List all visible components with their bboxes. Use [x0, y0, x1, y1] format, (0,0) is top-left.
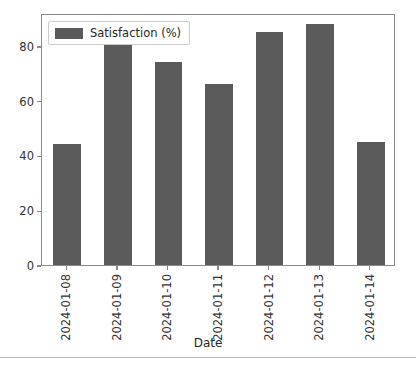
y-tick-label: 80	[19, 40, 34, 54]
x-tick-label: 2024-01-11	[211, 274, 225, 341]
x-tick-mark	[217, 266, 218, 270]
x-tick-mark	[268, 266, 269, 270]
plot-area	[42, 15, 394, 265]
bar-2024-01-11	[205, 84, 233, 265]
bar-2024-01-13	[306, 24, 334, 265]
plot-area-frame	[41, 14, 395, 266]
x-tick-mark	[66, 266, 67, 270]
bar-2024-01-10	[155, 62, 183, 265]
bar-2024-01-08	[53, 144, 81, 265]
bar-2024-01-09	[104, 40, 132, 265]
x-tick-mark	[116, 266, 117, 270]
x-axis: 2024-01-082024-01-092024-01-102024-01-11…	[41, 266, 395, 346]
legend-swatch-satisfaction	[55, 28, 83, 39]
y-tick-label: 20	[19, 204, 34, 218]
x-tick-mark	[369, 266, 370, 270]
x-tick-label: 2024-01-08	[59, 274, 73, 341]
chart-legend: Satisfaction (%)	[48, 21, 190, 45]
x-tick-label: 2024-01-14	[363, 274, 377, 341]
legend-label-satisfaction: Satisfaction (%)	[90, 26, 181, 40]
x-tick-mark	[167, 266, 168, 270]
x-tick-mark	[319, 266, 320, 270]
y-tick-label: 40	[19, 149, 34, 163]
y-tick-label: 60	[19, 95, 34, 109]
y-axis: 020406080	[0, 0, 41, 280]
bar-2024-01-12	[256, 32, 284, 265]
x-axis-title: Date	[0, 336, 416, 350]
x-tick-label: 2024-01-10	[160, 274, 174, 341]
bar-2024-01-14	[357, 142, 385, 265]
bottom-strip	[0, 358, 416, 369]
x-tick-label: 2024-01-12	[262, 274, 276, 341]
x-tick-label: 2024-01-09	[110, 274, 124, 341]
y-tick-label: 0	[27, 259, 34, 273]
x-tick-label: 2024-01-13	[312, 274, 326, 341]
chart-figure: 020406080 Satisfaction (%) 2024-01-08202…	[0, 0, 416, 369]
